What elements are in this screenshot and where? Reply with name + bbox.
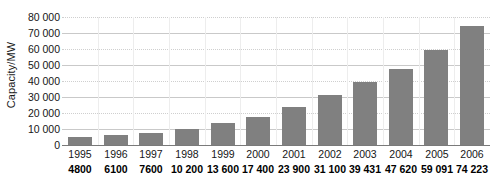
category-value-label: 6100 — [98, 162, 134, 177]
y-tick-label: 60 000 — [20, 44, 60, 55]
category-year-label: 2005 — [419, 147, 455, 162]
x-axis-line — [62, 145, 490, 146]
category-column: 200231 100 — [312, 147, 348, 181]
category-value-label: 4800 — [62, 162, 98, 177]
category-value-label: 39 431 — [347, 162, 383, 177]
y-tick-label: 20 000 — [20, 108, 60, 119]
bar — [318, 95, 342, 145]
category-value-label: 59 091 — [419, 162, 455, 177]
y-tick-label: 80 000 — [20, 12, 60, 23]
category-value-label: 74 223 — [454, 162, 490, 177]
category-column: 200339 431 — [347, 147, 383, 181]
category-value-label: 17 400 — [240, 162, 276, 177]
plot-area — [62, 17, 490, 145]
category-year-label: 1996 — [98, 147, 134, 162]
category-column: 199810 200 — [169, 147, 205, 181]
category-year-label: 1995 — [62, 147, 98, 162]
bar — [104, 135, 128, 145]
category-year-label: 1998 — [169, 147, 205, 162]
category-year-label: 1999 — [205, 147, 241, 162]
bar — [282, 107, 306, 145]
bar — [424, 50, 448, 145]
category-column: 200447 620 — [383, 147, 419, 181]
y-tick-label: 10 000 — [20, 124, 60, 135]
category-column: 19954800 — [62, 147, 98, 181]
category-value-label: 7600 — [133, 162, 169, 177]
category-value-label: 10 200 — [169, 162, 205, 177]
category-value-label: 13 600 — [205, 162, 241, 177]
category-value-label: 23 900 — [276, 162, 312, 177]
bar — [460, 26, 484, 145]
category-column: 200559 091 — [419, 147, 455, 181]
category-year-label: 2000 — [240, 147, 276, 162]
category-year-label: 2006 — [454, 147, 490, 162]
bar-chart-figure: Capacity/MW 010 00020 00030 00040 00050 … — [0, 0, 494, 182]
bar — [139, 133, 163, 145]
category-year-label: 1997 — [133, 147, 169, 162]
category-year-label: 2004 — [383, 147, 419, 162]
category-label-table: 199548001996610019977600199810 200199913… — [62, 147, 490, 181]
bar — [175, 129, 199, 145]
category-year-label: 2002 — [312, 147, 348, 162]
category-column: 200123 900 — [276, 147, 312, 181]
y-tick-label: 30 000 — [20, 92, 60, 103]
y-tick-label: 70 000 — [20, 28, 60, 39]
category-column: 199913 600 — [205, 147, 241, 181]
category-value-label: 47 620 — [383, 162, 419, 177]
category-year-label: 2003 — [347, 147, 383, 162]
category-column: 200674 223 — [454, 147, 490, 181]
y-tick-label: 40 000 — [20, 76, 60, 87]
y-axis-title-label: Capacity/MW — [5, 42, 17, 109]
category-column: 19977600 — [133, 147, 169, 181]
y-tick-label: 50 000 — [20, 60, 60, 71]
bar — [68, 137, 92, 145]
category-column: 200017 400 — [240, 147, 276, 181]
bars-series — [62, 17, 490, 145]
category-value-label: 31 100 — [312, 162, 348, 177]
category-year-label: 2001 — [276, 147, 312, 162]
category-column: 19966100 — [98, 147, 134, 181]
bar — [211, 123, 235, 145]
bar — [389, 69, 413, 145]
y-axis-title: Capacity/MW — [0, 0, 22, 150]
bar — [353, 82, 377, 145]
y-tick-label: 0 — [20, 140, 60, 151]
y-axis-tick-labels: 010 00020 00030 00040 00050 00060 00070 … — [20, 11, 60, 145]
bar — [246, 117, 270, 145]
